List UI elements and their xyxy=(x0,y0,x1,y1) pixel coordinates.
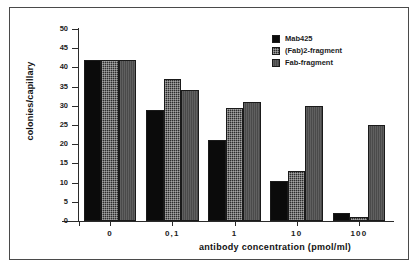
bar xyxy=(350,217,368,221)
bar xyxy=(84,60,102,221)
x-axis-line xyxy=(62,221,394,222)
y-axis-tick-label: 40 xyxy=(42,63,68,71)
bar-group xyxy=(84,29,137,221)
bar xyxy=(146,110,164,221)
bar xyxy=(164,79,182,221)
y-axis-tick xyxy=(72,125,78,126)
y-axis-tick xyxy=(72,48,78,49)
y-axis-tick xyxy=(72,144,78,145)
y-axis-tick xyxy=(72,202,78,203)
bar xyxy=(119,60,137,221)
y-axis-tick xyxy=(72,106,78,107)
y-axis-tick-label: 15 xyxy=(42,159,68,167)
x-axis-tick xyxy=(297,221,298,226)
y-axis-tick xyxy=(72,67,78,68)
chart-legend: Mab425(Fab)2-fragmentFab-fragment xyxy=(272,33,392,69)
legend-swatch-icon xyxy=(272,59,280,67)
bar xyxy=(243,102,261,221)
bar-group xyxy=(146,29,199,221)
x-axis-tick-label: 100 xyxy=(329,229,389,238)
x-axis-tick xyxy=(359,221,360,226)
y-axis-tick xyxy=(72,163,78,164)
x-axis-tick-label: 10 xyxy=(267,229,327,238)
bar xyxy=(208,140,226,221)
y-axis-tick-label: 5 xyxy=(42,198,68,206)
y-axis-tick-label: 0 xyxy=(42,217,68,225)
y-axis-tick xyxy=(72,87,78,88)
y-axis-tick xyxy=(72,183,78,184)
x-axis-title: antibody concentration (pmol/ml) xyxy=(150,242,400,252)
x-axis-tick-label: 0 xyxy=(80,229,140,238)
bar xyxy=(368,125,386,221)
legend-label: (Fab)2-fragment xyxy=(285,46,342,55)
y-axis-tick xyxy=(72,221,78,222)
x-axis-tick-label: 1 xyxy=(205,229,265,238)
legend-swatch-icon xyxy=(272,35,280,43)
legend-item: Mab425 xyxy=(272,33,392,44)
x-axis-tick xyxy=(110,221,111,226)
bar xyxy=(333,213,351,221)
x-axis-origin-tick xyxy=(79,221,80,226)
y-axis-title: colonies/capillary xyxy=(25,41,35,161)
bar xyxy=(226,108,244,221)
legend-item: Fab-fragment xyxy=(272,57,392,68)
bar-group xyxy=(208,29,261,221)
y-axis-tick-label: 25 xyxy=(42,121,68,129)
legend-label: Mab425 xyxy=(285,34,313,43)
y-axis-tick-label: 35 xyxy=(42,83,68,91)
x-axis-tick xyxy=(235,221,236,226)
x-axis-tick-label: 0,1 xyxy=(142,229,202,238)
y-axis-tick-label: 45 xyxy=(42,44,68,52)
bar-chart: colonies/capillary 05101520253035404550 … xyxy=(0,0,420,271)
y-axis-tick-label: 50 xyxy=(42,25,68,33)
bar xyxy=(288,171,306,221)
y-axis-tick-label: 30 xyxy=(42,102,68,110)
bar xyxy=(101,60,119,221)
bar xyxy=(305,106,323,221)
y-axis-tick-label: 10 xyxy=(42,179,68,187)
legend-item: (Fab)2-fragment xyxy=(272,45,392,56)
y-axis-tick xyxy=(72,29,78,30)
bar xyxy=(270,181,288,221)
y-axis-tick-label: 20 xyxy=(42,140,68,148)
x-axis-tick xyxy=(172,221,173,226)
bar xyxy=(181,90,199,221)
legend-swatch-icon xyxy=(272,47,280,55)
legend-label: Fab-fragment xyxy=(285,58,333,67)
